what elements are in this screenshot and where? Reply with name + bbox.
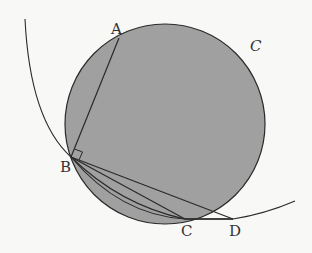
label-c: C <box>181 224 192 239</box>
label-d: D <box>229 224 241 239</box>
label-b: B <box>60 160 71 175</box>
shaded-circle <box>65 24 265 224</box>
label-circle: C <box>250 39 261 54</box>
geometry-figure <box>0 0 312 253</box>
label-a: A <box>111 22 122 37</box>
diagram: A B C D C <box>0 0 312 253</box>
